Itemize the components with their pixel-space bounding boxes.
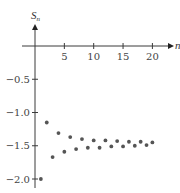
x-axis-label: n	[175, 39, 180, 51]
data-point	[104, 139, 108, 143]
data-point	[127, 140, 131, 144]
data-point	[68, 135, 72, 139]
data-point	[45, 121, 49, 125]
data-point	[92, 139, 96, 143]
sequence-chart: n 5101520 Sn −0.5−1.0−1.5−2.0	[0, 0, 180, 193]
data-point	[62, 150, 66, 154]
y-axis: Sn −0.5−1.0−1.5−2.0	[6, 9, 41, 188]
data-point	[74, 147, 78, 151]
x-axis-arrow-icon	[168, 43, 174, 49]
y-tick-label: −1.0	[6, 107, 30, 118]
data-point	[151, 141, 155, 145]
x-tick-label: 5	[61, 51, 67, 62]
data-points	[39, 121, 154, 181]
data-point	[80, 137, 84, 141]
y-axis-arrow-icon	[32, 24, 38, 30]
data-point	[86, 146, 90, 150]
x-tick-label: 15	[117, 51, 130, 62]
y-tick-label: −1.5	[6, 140, 30, 151]
data-point	[57, 131, 61, 135]
data-point	[98, 146, 102, 150]
data-point	[115, 139, 119, 143]
data-point	[121, 145, 125, 149]
data-point	[139, 140, 143, 144]
data-point	[145, 143, 149, 147]
x-axis: n 5101520	[22, 39, 180, 62]
data-point	[133, 144, 137, 148]
data-point	[39, 177, 43, 181]
y-axis-label: Sn	[31, 9, 41, 23]
y-tick-label: −2.0	[6, 174, 30, 185]
y-tick-label: −0.5	[6, 74, 30, 85]
data-point	[109, 145, 113, 149]
x-tick-label: 20	[146, 51, 159, 62]
x-tick-label: 10	[87, 51, 100, 62]
y-axis-label-sub: n	[37, 15, 41, 23]
data-point	[51, 155, 55, 159]
y-ticks: −0.5−1.0−1.5−2.0	[6, 74, 38, 185]
